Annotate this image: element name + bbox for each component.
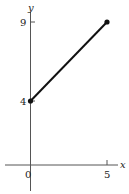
y-tick-label-4: 4 (20, 96, 26, 107)
endpoint-start (28, 98, 33, 103)
endpoint-end (104, 19, 109, 24)
y-axis-label: y (27, 2, 34, 13)
x-tick-label-5: 5 (104, 169, 110, 180)
line-chart: y 9 4 0 5 x (0, 0, 129, 194)
x-tick-label-0: 0 (25, 169, 31, 180)
data-segment (31, 22, 108, 101)
x-axis-label: x (120, 159, 126, 170)
y-tick-label-9: 9 (20, 17, 26, 28)
